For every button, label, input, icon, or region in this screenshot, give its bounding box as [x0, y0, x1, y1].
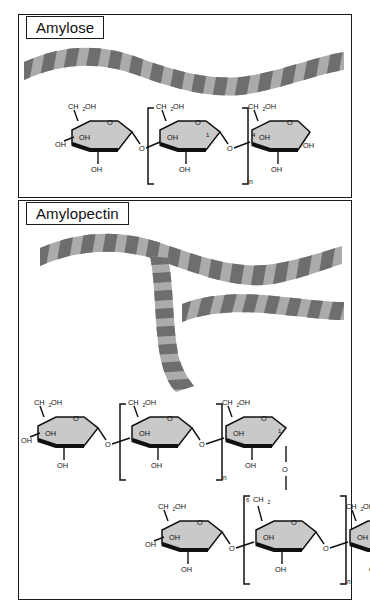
glucose-unit-1: CH 2 OH O OH OH OH O [55, 102, 145, 174]
svg-text:CH: CH [68, 102, 79, 111]
svg-text:OH: OH [167, 133, 178, 142]
svg-text:OH: OH [51, 398, 62, 407]
panel-label-amylopectin: Amylopectin [26, 202, 129, 225]
svg-text:O: O [107, 118, 113, 127]
svg-text:OH: OH [275, 565, 286, 574]
svg-text:OH: OH [239, 398, 250, 407]
svg-text:OH: OH [145, 398, 156, 407]
glucose-unit-6: CH 2 OH O OH OH OH [330, 502, 370, 574]
starch-structure-figure: Amylose [0, 0, 370, 616]
svg-text:CH: CH [156, 102, 167, 111]
svg-text:OH: OH [357, 533, 368, 542]
svg-text:CH: CH [346, 502, 357, 511]
amylopectin-helix-illustration [22, 226, 348, 394]
svg-text:CH: CH [253, 495, 264, 504]
svg-text:O: O [197, 518, 203, 527]
repeat-subscript-n-top: n [223, 474, 227, 481]
svg-text:CH: CH [158, 502, 169, 511]
svg-text:OH: OH [57, 461, 68, 470]
svg-text:O: O [73, 414, 79, 423]
svg-text:CH: CH [128, 398, 139, 407]
svg-text:OH: OH [169, 533, 180, 542]
carbon-6-label: 6 [246, 497, 250, 503]
svg-text:O: O [167, 414, 173, 423]
amylopectin-chemical-structure: CH 2 OH O OH OH OH O [12, 400, 358, 596]
panel-label-amylose: Amylose [26, 16, 104, 39]
svg-text:CH: CH [222, 398, 233, 407]
amylose-chemical-structure: CH 2 OH O OH OH OH O CH 2 [60, 104, 312, 196]
svg-text:OH: OH [139, 429, 150, 438]
svg-text:OH: OH [145, 540, 156, 549]
svg-text:O: O [287, 118, 293, 127]
svg-text:2: 2 [268, 499, 271, 505]
svg-text:O: O [323, 544, 329, 553]
bracket-close-top [216, 404, 222, 480]
repeat-subscript-n-bottom: n [347, 578, 351, 585]
svg-text:O: O [195, 118, 201, 127]
svg-text:OH: OH [85, 102, 96, 111]
bracket-close [242, 108, 248, 184]
svg-text:OH: OH [181, 565, 192, 574]
glucose-unit-3: CH 2 OH O 4 OH OH OH [234, 102, 314, 174]
bracket-open-top [120, 404, 126, 480]
svg-text:O: O [139, 144, 145, 153]
svg-text:OH: OH [271, 165, 282, 174]
svg-text:OH: OH [151, 461, 162, 470]
svg-text:OH: OH [303, 141, 314, 150]
glucose-unit-5-branch: 6 CH 2 O OH OH O [236, 495, 329, 574]
svg-text:O: O [227, 144, 233, 153]
svg-text:OH: OH [259, 133, 270, 142]
glucose-unit-2: CH 2 OH O OH 1 OH O [146, 102, 233, 174]
repeat-subscript-n: n [249, 178, 253, 185]
svg-text:O: O [261, 414, 267, 423]
amylopectin-top-chain: CH 2 OH O OH OH OH O [21, 398, 288, 490]
glucose-unit-1: CH 2 OH O OH OH OH O [21, 398, 111, 470]
svg-text:OH: OH [55, 140, 66, 149]
svg-text:OH: OH [45, 429, 56, 438]
svg-text:OH: OH [363, 502, 370, 511]
svg-text:OH: OH [245, 461, 256, 470]
svg-text:OH: OH [91, 165, 102, 174]
glucose-unit-2: CH 2 OH O OH OH O [112, 398, 205, 470]
amylose-helix-illustration [22, 40, 348, 102]
glucose-unit-4: CH 2 OH O OH OH OH O [145, 502, 235, 574]
glucose-unit-3: CH 2 OH O OH 1 OH O [206, 398, 288, 490]
svg-text:OH: OH [233, 429, 244, 438]
svg-text:CH: CH [34, 398, 45, 407]
svg-text:O: O [229, 544, 235, 553]
svg-text:OH: OH [263, 533, 274, 542]
amylopectin-bottom-chain: CH 2 OH O OH OH OH O [145, 495, 370, 585]
svg-text:OH: OH [265, 102, 276, 111]
svg-text:O: O [282, 465, 288, 474]
svg-text:OH: OH [173, 102, 184, 111]
svg-text:OH: OH [21, 436, 32, 445]
svg-text:OH: OH [179, 165, 190, 174]
svg-text:CH: CH [248, 102, 259, 111]
svg-text:OH: OH [79, 133, 90, 142]
svg-text:O: O [105, 440, 111, 449]
svg-text:O: O [199, 440, 205, 449]
svg-text:OH: OH [175, 502, 186, 511]
svg-text:O: O [291, 518, 297, 527]
bracket-open-bottom [244, 496, 250, 584]
